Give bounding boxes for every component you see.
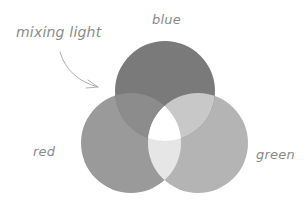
- red-label: red: [33, 145, 55, 158]
- blue-label: blue: [152, 13, 181, 26]
- diagram-title: mixing light: [16, 25, 101, 39]
- venn-diagram: mixing light blue red green: [0, 0, 308, 205]
- green-label: green: [256, 148, 295, 161]
- arrow-icon: [60, 52, 98, 87]
